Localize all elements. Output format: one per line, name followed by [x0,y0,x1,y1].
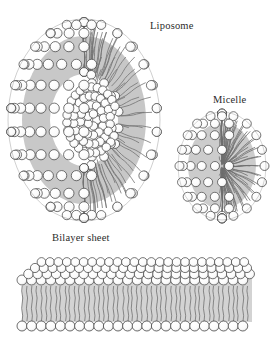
liposome-structure [7,17,162,222]
bilayer-bottom-heads [17,321,248,331]
micelle-label: Micelle [213,94,246,105]
lipid-assemblies-figure: Liposome Micelle Bilayer sheet [0,0,274,345]
lipid-structures-illustration [0,0,274,345]
liposome-label: Liposome [150,20,194,31]
bilayer-sheet-label: Bilayer sheet [52,232,110,243]
micelle-structure [175,109,269,223]
bilayer-sheet-structure [17,258,254,331]
bilayer-top-heads [17,258,254,285]
